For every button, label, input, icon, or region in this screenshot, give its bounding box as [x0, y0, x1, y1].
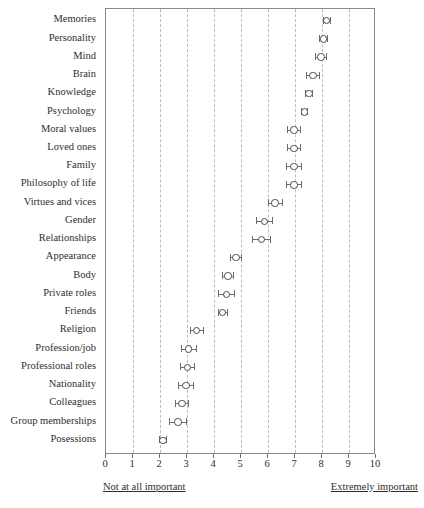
dot-plot-chart: MemoriesPersonalityMindBrainKnowledgePsy… [0, 0, 424, 508]
data-point-marker [305, 90, 312, 97]
error-bar-cap [218, 290, 219, 297]
category-label: Colleagues [49, 397, 96, 408]
x-axis-tick-label: 9 [345, 459, 350, 470]
error-bar-cap [272, 217, 273, 224]
error-bar-cap [175, 400, 176, 407]
error-bar-cap [315, 53, 316, 60]
error-bar-cap [188, 400, 189, 407]
error-bar-cap [282, 199, 283, 206]
x-axis-tick-label: 3 [183, 459, 188, 470]
data-point-marker [290, 145, 297, 152]
error-bar-cap [190, 327, 191, 334]
error-bar-cap [256, 217, 257, 224]
category-label: Group memberships [11, 415, 96, 426]
category-label: Friends [65, 306, 97, 317]
gridline [133, 9, 134, 453]
category-label: Appearance [46, 251, 96, 262]
x-axis-tick-label: 10 [370, 459, 381, 470]
data-point-marker [223, 291, 230, 298]
gridline [268, 9, 269, 453]
category-label: Brain [73, 69, 96, 80]
error-bar-cap [300, 144, 301, 151]
error-bar-cap [186, 418, 187, 425]
data-point-marker [290, 163, 297, 170]
category-label: Posessions [50, 434, 96, 445]
error-bar-cap [286, 181, 287, 188]
category-label: Moral values [41, 124, 96, 135]
data-point-marker [309, 72, 316, 79]
x-axis-tick-label: 7 [291, 459, 296, 470]
category-label: Profession/job [35, 342, 96, 353]
gridline [349, 9, 350, 453]
x-axis-tick-label: 0 [102, 459, 107, 470]
gridline [214, 9, 215, 453]
category-label: Nationality [49, 379, 96, 390]
axis-anchor-high-label: Extremely important [331, 482, 418, 493]
data-point-marker [185, 345, 192, 352]
error-bar-cap [241, 254, 242, 261]
error-bar-cap [203, 327, 204, 334]
category-label: Memories [53, 14, 96, 25]
data-point-marker [301, 108, 308, 115]
error-bar-cap [230, 254, 231, 261]
gridline [160, 9, 161, 453]
data-point-marker [193, 327, 200, 334]
error-bar-cap [180, 363, 181, 370]
error-bar-cap [326, 53, 327, 60]
error-bar-cap [286, 163, 287, 170]
x-axis-tick-label: 6 [264, 459, 269, 470]
data-point-marker [178, 400, 185, 407]
error-bar-cap [227, 309, 228, 316]
category-label: Mind [73, 51, 96, 62]
x-axis-tick-label: 1 [129, 459, 134, 470]
axis-anchor-low-label: Not at all important [103, 482, 186, 493]
category-label: Gender [65, 215, 96, 226]
error-bar-cap [270, 236, 271, 243]
category-label: Loved ones [47, 142, 96, 153]
x-axis: 012345678910 [105, 454, 375, 474]
plot-area [105, 8, 375, 454]
data-point-marker [174, 418, 181, 425]
error-bar-cap [287, 144, 288, 151]
gridline [241, 9, 242, 453]
category-label: Religion [60, 324, 96, 335]
data-point-marker [290, 126, 297, 133]
category-label: Family [66, 160, 96, 171]
error-bar-cap [268, 199, 269, 206]
error-bar-cap [233, 272, 234, 279]
category-axis-labels: MemoriesPersonalityMindBrainKnowledgePsy… [0, 0, 100, 452]
data-point-marker [317, 53, 324, 60]
category-label: Virtues and vices [24, 196, 96, 207]
error-bar-cap [300, 126, 301, 133]
gridline [295, 9, 296, 453]
error-bar-cap [178, 382, 179, 389]
category-label: Philosophy of life [21, 178, 96, 189]
data-point-marker [261, 218, 268, 225]
error-bar-cap [319, 72, 320, 79]
data-point-marker [290, 181, 297, 188]
category-label: Psychology [47, 105, 96, 116]
error-bar-cap [287, 126, 288, 133]
data-point-marker [159, 437, 166, 444]
data-point-marker [271, 199, 278, 206]
x-axis-tick-label: 8 [318, 459, 323, 470]
data-point-marker [320, 35, 327, 42]
error-bar-cap [306, 72, 307, 79]
data-point-marker [232, 254, 239, 261]
x-axis-tick-label: 4 [210, 459, 215, 470]
error-bar-cap [222, 272, 223, 279]
category-label: Body [73, 269, 96, 280]
error-bar-cap [252, 236, 253, 243]
category-label: Personality [49, 32, 96, 43]
category-label: Relationships [39, 233, 96, 244]
category-label: Private roles [43, 288, 96, 299]
error-bar-cap [193, 382, 194, 389]
x-axis-tick-label: 2 [156, 459, 161, 470]
data-point-marker [182, 382, 189, 389]
error-bar-cap [301, 163, 302, 170]
error-bar-cap [234, 290, 235, 297]
data-point-marker [258, 236, 265, 243]
error-bar-cap [301, 181, 302, 188]
category-label: Professional roles [21, 361, 96, 372]
error-bar-cap [169, 418, 170, 425]
